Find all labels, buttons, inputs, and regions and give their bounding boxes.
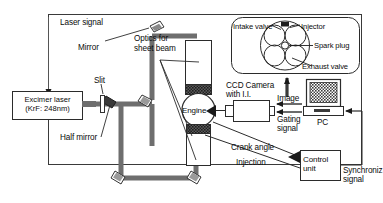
label-exhaust-valve: Exhaust valve: [302, 62, 348, 71]
mirror-bottom-right: [187, 171, 201, 184]
excimer-laser-output-port: [82, 101, 96, 107]
label-control-unit-line2: unit: [303, 164, 316, 173]
label-injector: Injector: [301, 22, 325, 31]
label-gating-signal-line1: Gating: [277, 115, 301, 124]
engine-cylinder-lower: [187, 134, 211, 166]
pc-monitor-screen: [310, 83, 337, 103]
label-laser-signal: Laser signal: [60, 18, 103, 27]
label-crank-angle: Crank angle: [231, 143, 274, 152]
pc-base-slot: [314, 109, 330, 112]
mirror-top: [150, 21, 164, 32]
ccd-camera-rear-mount: [270, 107, 275, 116]
label-image-signal: Image: [277, 94, 299, 103]
excimer-laser-label-line2: (KrF: 248nm): [14, 105, 81, 114]
sheet-beam-optics-body: [186, 41, 212, 85]
ccd-camera-body: [234, 101, 270, 122]
label-engine: Engine: [182, 106, 206, 115]
ccd-camera-lens: [226, 106, 234, 117]
label-spark-plug: Spark plug: [314, 41, 349, 50]
label-slit: Slit: [94, 76, 105, 85]
label-synchroniz-signal-line1: Synchroniz: [343, 166, 383, 175]
label-intake-valve: Intake valve: [233, 22, 272, 31]
label-mirror: Mirror: [78, 43, 99, 52]
label-optics-sheet-beam-line2: sheet beam: [134, 44, 176, 53]
label-ccd-camera-line1: CCD Camera: [226, 81, 274, 90]
spark-plug-center: [281, 42, 288, 49]
slit-plate: [101, 96, 105, 113]
leader-slit: [101, 84, 103, 94]
label-control-unit-line1: Control: [303, 155, 328, 164]
label-pc: PC: [317, 118, 328, 127]
label-synchroniz-signal-line2: signal: [343, 175, 364, 184]
label-ccd-camera-line2: with I.I.: [226, 90, 251, 99]
label-optics-sheet-beam-line1: Optics for: [134, 34, 168, 43]
injector-marker: [281, 22, 289, 27]
label-injection: Injection: [236, 158, 266, 167]
label-half-mirror: Half mirror: [60, 133, 97, 142]
label-gating-signal-line2: signal: [277, 124, 298, 133]
